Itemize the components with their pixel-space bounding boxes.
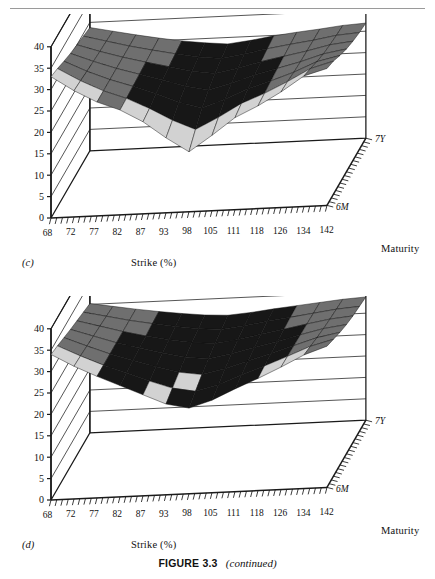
x-tick-label: 98 <box>182 508 192 518</box>
x-tick-label: 98 <box>182 226 192 236</box>
page-top-rule <box>10 8 425 9</box>
y-tick-label: 5 <box>39 191 44 202</box>
chart-panel-c: 0510152025303540687277828793981051111181… <box>0 14 435 296</box>
y-tick-label: 10 <box>34 452 44 463</box>
x-axis-title-d: Strike (%) <box>131 539 176 550</box>
x-tick-label: 126 <box>273 226 288 236</box>
y-tick-label: 30 <box>34 84 44 95</box>
x-tick-label: 72 <box>66 509 76 519</box>
x-tick-label: 72 <box>66 227 76 237</box>
x-tick-label: 142 <box>319 507 334 517</box>
x-tick-label: 93 <box>159 509 169 519</box>
x-tick-label: 134 <box>296 226 311 236</box>
y-tick-label: 40 <box>34 323 44 334</box>
x-tick-label: 77 <box>89 227 99 237</box>
figure-caption: FIGURE 3.3 (continued) <box>0 557 435 569</box>
figure-caption-note: (continued) <box>226 557 277 569</box>
surface-plot-d: 0510152025303540687277828793981051111181… <box>0 296 435 578</box>
z-tick-label: 6M <box>336 202 350 212</box>
z-tick-label: 6M <box>336 484 350 494</box>
z-tick-label: 7Y <box>375 134 387 144</box>
y-tick-label: 25 <box>34 387 44 398</box>
z-axis-title-d: Maturity <box>381 525 419 536</box>
y-tick-label: 40 <box>34 41 44 52</box>
y-tick-label: 15 <box>34 430 44 441</box>
x-tick-label: 111 <box>227 226 241 236</box>
x-tick-label: 105 <box>203 508 218 518</box>
x-tick-label: 111 <box>227 508 241 518</box>
panel-label-d: (d) <box>22 539 34 550</box>
y-tick-label: 35 <box>34 345 44 356</box>
y-tick-label: 35 <box>34 63 44 74</box>
x-tick-label: 142 <box>319 225 334 235</box>
y-tick-label: 0 <box>39 212 44 223</box>
y-tick-label: 30 <box>34 366 44 377</box>
x-tick-label: 68 <box>43 228 53 238</box>
z-axis-title-c: Maturity <box>381 243 419 254</box>
x-tick-label: 87 <box>136 509 146 519</box>
figure-page: 0510152025303540687277828793981051111181… <box>0 0 435 579</box>
y-tick-label: 0 <box>39 494 44 505</box>
surface-plot-c: 0510152025303540687277828793981051111181… <box>0 14 435 296</box>
x-axis-title-c: Strike (%) <box>131 257 176 268</box>
y-tick-label: 15 <box>34 148 44 159</box>
y-tick-label: 10 <box>34 170 44 181</box>
x-tick-label: 77 <box>89 509 99 519</box>
y-tick-label: 20 <box>34 409 44 420</box>
x-tick-label: 82 <box>113 509 123 519</box>
y-tick-label: 20 <box>34 127 44 138</box>
y-tick-label: 25 <box>34 105 44 116</box>
x-tick-label: 87 <box>136 227 146 237</box>
z-tick-label: 7Y <box>375 416 387 426</box>
x-tick-label: 118 <box>250 226 264 236</box>
x-tick-label: 126 <box>273 508 288 518</box>
x-tick-label: 68 <box>43 510 53 520</box>
panel-label-c: (c) <box>22 257 34 268</box>
figure-caption-number: FIGURE 3.3 <box>158 557 217 569</box>
x-tick-label: 134 <box>296 508 311 518</box>
x-tick-label: 93 <box>159 227 169 237</box>
chart-panel-d: 0510152025303540687277828793981051111181… <box>0 296 435 578</box>
y-tick-label: 5 <box>39 473 44 484</box>
x-tick-label: 105 <box>203 226 218 236</box>
x-tick-label: 118 <box>250 508 264 518</box>
x-tick-label: 82 <box>113 227 123 237</box>
